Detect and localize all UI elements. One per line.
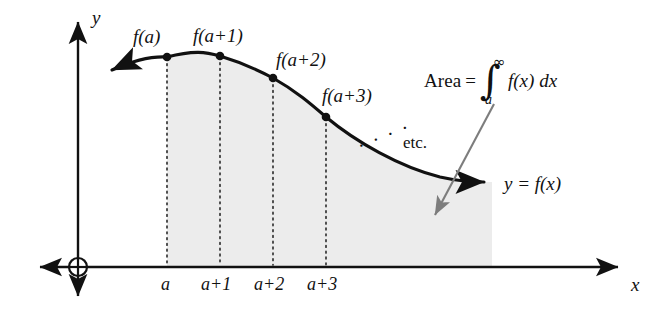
diagram-canvas (0, 0, 656, 313)
curve-point-f-a-plus-1 (216, 52, 225, 61)
label-f-a-plus-3: f(a+3) (322, 86, 372, 105)
label-f-a-plus-1: f(a+1) (193, 26, 243, 45)
curve-equation-label: y = f(x) (504, 174, 561, 193)
integral-lower-limit: a (485, 92, 492, 108)
x-tick-label-a-plus-1: a+1 (201, 275, 231, 293)
y-axis-label: y (92, 8, 100, 27)
curve-point-f-a-plus-2 (269, 74, 278, 83)
x-tick-label-a: a (161, 275, 170, 293)
x-tick-label-a-plus-2: a+2 (254, 275, 284, 293)
integral-test-diagram: y x f(a) f(a+1) f(a+2) f(a+3) a a+1 a+2 … (0, 0, 656, 313)
label-f-a: f(a) (133, 27, 160, 46)
integral-upper-limit: ∞ (493, 53, 506, 71)
integrand-label: f(x) (508, 70, 534, 92)
etc-label: etc. (403, 134, 427, 151)
curve-point-f-a (163, 53, 172, 62)
area-integral-annotation: Area = ∫ ∞ a f(x) dx (424, 64, 557, 98)
x-axis-label: x (631, 275, 639, 294)
function-curve-left-tail (112, 57, 167, 70)
label-f-a-plus-2: f(a+2) (276, 50, 326, 69)
differential-label: dx (539, 70, 557, 92)
area-word-label: Area (424, 70, 461, 92)
curve-point-f-a-plus-3 (322, 113, 331, 122)
x-tick-label-a-plus-3: a+3 (307, 275, 337, 293)
integral-expression: ∫ ∞ a (480, 64, 501, 98)
equals-sign: = (465, 70, 476, 92)
